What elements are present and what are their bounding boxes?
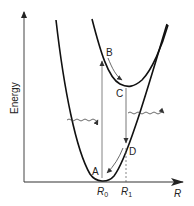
excited-state-curve <box>92 19 168 86</box>
x-axis-label: R <box>174 188 181 199</box>
r1-label: R1 <box>121 186 132 198</box>
point-d-label: D <box>129 146 136 157</box>
outgoing-photon-wave <box>128 112 164 114</box>
point-a-label: A <box>92 166 99 177</box>
y-axis-label: Energy <box>9 82 20 114</box>
point-b-label: B <box>106 47 113 58</box>
relaxation-excited-arrow <box>108 58 122 80</box>
point-c-label: C <box>116 88 123 99</box>
ground-state-curve <box>56 20 167 181</box>
energy-diagram: Energy R R0 R1 A B C D <box>0 0 194 206</box>
r0-label: R0 <box>97 186 108 198</box>
axes <box>24 12 183 182</box>
relaxation-ground-arrow <box>107 148 123 173</box>
